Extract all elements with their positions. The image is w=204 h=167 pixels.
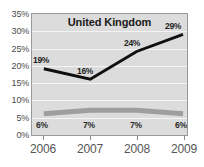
x-axis-tick-label: 2008 [124,142,150,156]
y-axis-tick-label: 30% [3,27,29,36]
data-label-dark-2006: 19% [33,56,49,65]
data-label-dark-2008: 24% [124,39,140,48]
data-label-gray-2006: 6% [36,121,48,130]
x-axis-tick-mark [184,136,185,140]
y-axis-tick-label: 5% [3,113,29,122]
x-axis-tick-label: 2007 [77,142,103,156]
y-axis-tick-label: 35% [3,10,29,19]
gray-series-line [44,110,183,113]
series-overlay [32,14,187,135]
y-axis-tick-label: 0% [3,131,29,140]
x-axis-tick-mark [90,136,91,140]
plot-area: United Kingdom 19% 16% 24% 29% 6% 7% 7% … [31,13,188,136]
x-axis-tick-mark [137,136,138,140]
y-axis-tick-label: 15% [3,79,29,88]
y-axis-tick-label: 20% [3,61,29,70]
y-axis-tick-label: 25% [3,44,29,53]
dark-series-line [44,34,183,79]
x-axis-tick-label: 2009 [171,142,197,156]
x-axis-tick-label: 2006 [30,142,56,156]
x-axis: 2006 2007 2008 2009 [31,136,188,167]
y-axis-tick-label: 10% [3,96,29,105]
data-label-dark-2009: 29% [165,22,181,31]
x-axis-tick-mark [43,136,44,140]
data-label-gray-2008: 7% [130,121,142,130]
y-axis: 35% 30% 25% 20% 15% 10% 5% 0% [0,0,29,167]
chart-container: 35% 30% 25% 20% 15% 10% 5% 0% United Kin… [0,0,204,167]
data-label-gray-2007: 7% [83,121,95,130]
data-label-dark-2007: 16% [77,67,93,76]
data-label-gray-2009: 6% [175,121,187,130]
